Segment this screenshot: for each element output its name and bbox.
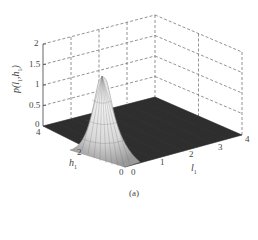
y-tick: 2 xyxy=(77,148,82,157)
x-tick: 0 xyxy=(131,168,136,177)
z-tick: 2 xyxy=(34,39,39,48)
y-tick: 4 xyxy=(36,128,41,137)
x-tick: 1 xyxy=(160,158,165,167)
y-axis-label: h1 xyxy=(69,158,77,172)
x-tick: 2 xyxy=(189,150,194,159)
z-tick: 0.5 xyxy=(29,101,40,110)
figure-caption: (a) xyxy=(129,188,139,198)
z-tick: 1.5 xyxy=(29,60,40,69)
y-tick: 0 xyxy=(119,168,124,177)
x-axis-label: l1 xyxy=(191,163,197,177)
x-tick: 4 xyxy=(245,135,250,144)
z-axis-label: p(l1,h1) xyxy=(11,57,25,101)
x-tick: 3 xyxy=(218,143,223,152)
z-tick: 1 xyxy=(35,80,40,89)
